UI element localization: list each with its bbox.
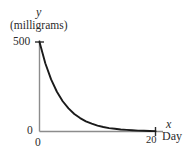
y-axis-label: y: [36, 6, 41, 18]
x-axis-unit-label: Day: [162, 130, 182, 142]
x-tick-label-0: 0: [35, 137, 41, 149]
decay-curve-path: [40, 42, 156, 131]
y-tick-label-500: 500: [13, 36, 30, 48]
y-tick-label-0: 0: [27, 125, 33, 137]
decay-curve-figure: y (milligrams) 500 0 0 20 x Day: [0, 0, 192, 160]
y-axis-unit-label: (milligrams): [10, 20, 68, 32]
x-tick-label-20: 20: [146, 135, 157, 146]
